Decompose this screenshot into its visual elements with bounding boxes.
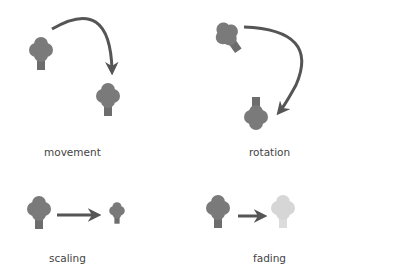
scaling-label: scaling [49,252,86,264]
scaling-panel [27,196,125,229]
rotation-label: rotation [249,146,290,158]
movement-label: movement [44,146,101,158]
tree-icon-start [29,37,53,70]
tree-icon-end [96,83,120,116]
tree-icon-start [210,17,249,58]
movement-panel [29,18,120,116]
tree-icon-faded [271,195,295,228]
tree-icon-small [109,202,125,223]
tree-icon-opaque [206,195,230,228]
tree-icon-large [27,196,51,229]
rotation-panel [210,17,302,130]
curved-arrow-icon [52,18,112,70]
tree-icon-rotated [244,97,268,130]
animation-types-diagram [0,0,408,273]
fading-panel [206,195,295,228]
fading-label: fading [253,252,286,264]
